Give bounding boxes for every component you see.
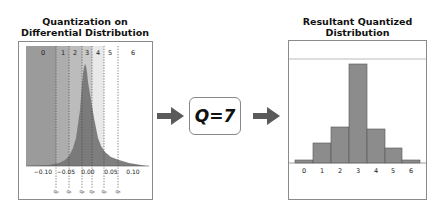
right-arrow-icon xyxy=(253,106,281,126)
left-title-line2: Differential Distribution xyxy=(18,27,152,38)
quantized-bars xyxy=(295,64,420,163)
svg-text:0.05: 0.05 xyxy=(104,168,118,175)
svg-text:q₀: q₀ xyxy=(53,188,58,195)
right-arrow-icon xyxy=(157,106,185,126)
left-title-line1: Quantization on xyxy=(18,16,152,27)
differential-distribution-chart: 0 1 2 3 4 5 6 −0.10 −0.05 0.00 0.05 0.10… xyxy=(19,42,152,199)
bar-2 xyxy=(331,127,349,163)
svg-text:0.00: 0.00 xyxy=(81,168,95,175)
svg-text:0.10: 0.10 xyxy=(126,168,140,175)
left-panel-title: Quantization on Differential Distributio… xyxy=(18,16,152,38)
bar-1 xyxy=(313,143,331,163)
bar-3 xyxy=(349,64,367,163)
bar-category-labels: 0 1 2 3 4 5 6 xyxy=(302,167,413,175)
threshold-labels: q₀ q₁ q₂ q₃ q₄ q₅ xyxy=(53,188,120,195)
quantization-level-box: Q=7 xyxy=(189,97,241,135)
right-panel-title: Resultant Quantized Distribution xyxy=(288,16,427,38)
svg-text:q₂: q₂ xyxy=(79,188,84,195)
svg-text:5: 5 xyxy=(391,167,395,175)
bar-5 xyxy=(385,148,402,163)
bar-6 xyxy=(402,160,420,163)
svg-text:5: 5 xyxy=(108,49,112,57)
svg-text:q₃: q₃ xyxy=(89,188,94,195)
bar-4 xyxy=(367,129,385,163)
svg-text:2: 2 xyxy=(338,167,342,175)
svg-text:0: 0 xyxy=(41,49,45,57)
right-title-line2: Distribution xyxy=(288,27,427,38)
quantized-distribution-panel: 0 1 2 3 4 5 6 xyxy=(288,40,427,200)
svg-text:4: 4 xyxy=(374,167,378,175)
svg-text:q₁: q₁ xyxy=(66,188,71,195)
svg-text:3: 3 xyxy=(356,167,360,175)
svg-text:q₄: q₄ xyxy=(101,188,106,195)
svg-text:3: 3 xyxy=(85,49,89,57)
quantization-level-label: Q=7 xyxy=(195,106,236,126)
svg-text:q₅: q₅ xyxy=(115,188,120,195)
differential-distribution-panel: 0 1 2 3 4 5 6 −0.10 −0.05 0.00 0.05 0.10… xyxy=(18,41,153,200)
svg-text:4: 4 xyxy=(96,49,100,57)
svg-text:1: 1 xyxy=(61,49,65,57)
right-title-line1: Resultant Quantized xyxy=(288,16,427,27)
bar-0 xyxy=(295,160,313,163)
svg-text:6: 6 xyxy=(131,49,135,57)
svg-text:1: 1 xyxy=(320,167,324,175)
quantized-distribution-chart: 0 1 2 3 4 5 6 xyxy=(289,41,426,199)
svg-text:6: 6 xyxy=(409,167,413,175)
svg-text:−0.05: −0.05 xyxy=(57,168,76,175)
svg-text:2: 2 xyxy=(73,49,77,57)
svg-text:0: 0 xyxy=(302,167,306,175)
svg-text:−0.10: −0.10 xyxy=(34,168,53,175)
x-tick-labels: −0.10 −0.05 0.00 0.05 0.10 xyxy=(34,168,140,175)
